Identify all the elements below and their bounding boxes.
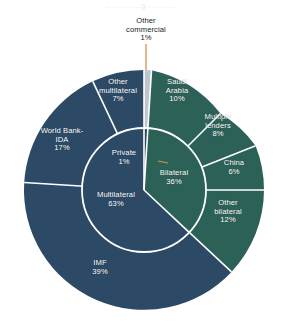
- label-bilateral-value: 36%: [160, 178, 188, 187]
- label-world-bank-ida-value: 17%: [41, 144, 84, 153]
- label-multilateral-value: 63%: [97, 200, 135, 209]
- label-other-commercial: Other commercial 1%: [126, 17, 166, 43]
- label-china: China 6%: [224, 159, 244, 176]
- label-multiple-lenders-value: 8%: [205, 130, 232, 139]
- label-world-bank-ida: World Bank- IDA 17%: [41, 127, 84, 153]
- label-imf-value: 39%: [92, 268, 108, 277]
- label-multilateral: Multilateral 63%: [97, 191, 135, 208]
- chart-canvas: .. . ., . ....g.. .. .. ...: [0, 0, 281, 334]
- label-private: Private 1%: [112, 149, 136, 166]
- label-saudi-arabia: Saudi Arabia 10%: [166, 78, 189, 104]
- label-saudi-arabia-value: 10%: [166, 95, 189, 104]
- label-multiple-lenders: Multiple lenders 8%: [205, 113, 232, 139]
- label-other-commercial-value: 1%: [126, 34, 166, 43]
- label-private-value: 1%: [112, 158, 136, 167]
- label-china-value: 6%: [224, 168, 244, 177]
- label-other-bilateral-value: 12%: [214, 216, 242, 225]
- label-other-bilateral: Other bilateral 12%: [214, 199, 242, 225]
- label-other-multilateral-value: 7%: [99, 95, 137, 104]
- label-imf: IMF 39%: [92, 259, 108, 276]
- label-bilateral: Bilateral 36%: [160, 169, 188, 186]
- label-other-multilateral: Other multilateral 7%: [99, 78, 137, 104]
